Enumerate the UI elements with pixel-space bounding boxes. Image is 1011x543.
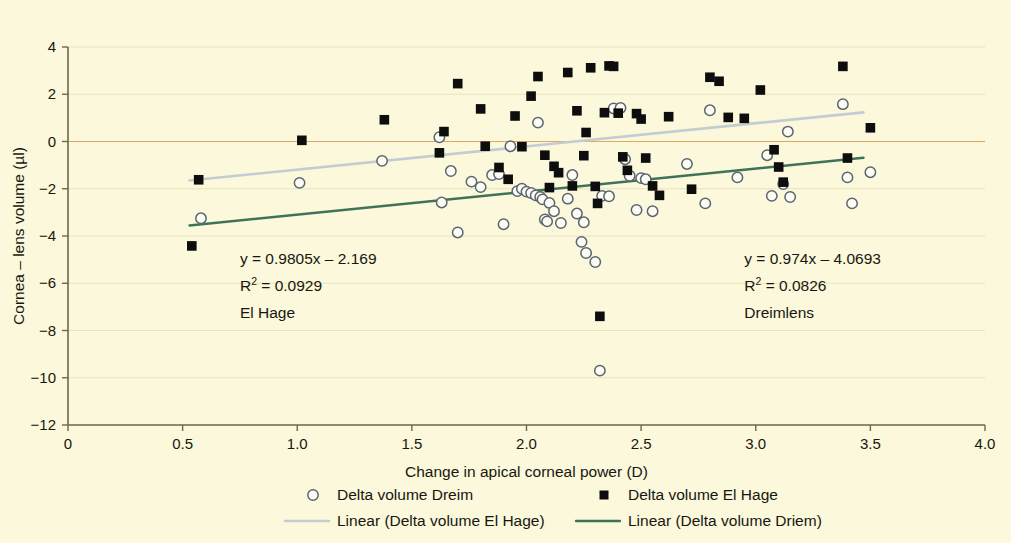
data-point-dreim [579,217,589,227]
data-point-dreim [196,213,206,223]
data-point-dreim [581,248,591,258]
data-point-dreim [294,178,304,188]
data-point-el-hage [664,112,674,122]
data-point-dreim [576,237,586,247]
data-point-el-hage [609,62,619,72]
y-axis-tick-label: −6 [39,274,56,291]
y-axis-tick-label: −8 [39,322,56,339]
y-axis-tick-label: −2 [39,180,56,197]
data-point-el-hage [503,175,513,185]
x-axis-tick-label: 4.0 [975,435,996,452]
data-point-el-hage [636,114,646,124]
x-axis-tick-label: 0 [64,435,72,452]
plot-svg: 420−2−4−6−8−10−1200.51.01.52.02.53.03.54… [0,0,1011,543]
x-axis-tick-label: 0.5 [172,435,193,452]
data-point-el-hage [590,182,600,192]
data-point-el-hage [705,72,715,82]
y-axis-tick-label: 4 [48,38,56,55]
x-axis-tick-label: 2.5 [631,435,652,452]
data-point-el-hage [568,181,578,191]
data-point-el-hage [526,91,536,101]
data-point-el-hage [769,145,779,155]
data-point-dreim [556,218,566,228]
data-point-dreim [498,219,508,229]
data-point-el-hage [554,168,564,178]
y-axis-tick-label: −12 [31,416,56,433]
x-axis-tick-label: 1.0 [287,435,308,452]
y-axis-tick-label: 0 [48,133,56,150]
data-point-dreim [838,99,848,109]
data-point-el-hage [572,106,582,116]
data-point-dreim [377,156,387,166]
data-point-dreim [567,170,577,180]
data-point-dreim [475,182,485,192]
data-point-el-hage [540,150,550,160]
annotation-dreimlens-series-label: Dreimlens [744,304,814,321]
data-point-el-hage [843,153,853,163]
data-point-dreim [533,117,543,127]
data-point-dreim [590,257,600,267]
legend-label: Delta volume Dreim [337,486,473,503]
chart-annotations: y = 0.9805x – 2.169R2 = 0.0929El Hagey =… [240,250,881,321]
data-point-el-hage [510,111,520,121]
data-point-el-hage [476,104,486,114]
annotation-dreimlens-equation: y = 0.974x – 4.0693 [744,250,881,267]
data-points [187,61,876,376]
data-point-dreim [847,198,857,208]
data-point-el-hage [655,191,665,201]
data-point-el-hage [739,114,749,124]
data-point-dreim [595,365,605,375]
data-point-el-hage [435,148,445,158]
data-point-el-hage [778,177,788,187]
data-point-dreim [549,206,559,216]
data-point-el-hage [613,108,623,118]
data-point-el-hage [563,68,573,78]
annotation-el-hage-r-squared: R2 = 0.0929 [240,275,322,294]
axis-titles: Change in apical corneal power (D)Cornea… [10,147,648,480]
x-axis-tick-label: 3.0 [745,435,766,452]
annotation-el-hage-equation: y = 0.9805x – 2.169 [240,250,377,267]
data-point-el-hage [641,153,651,163]
legend-marker-dreim [308,490,318,500]
data-point-el-hage [714,76,724,86]
data-point-el-hage [545,183,555,193]
data-point-dreim [446,166,456,176]
data-point-dreim [505,141,515,151]
chart-legend: Delta volume DreimDelta volume El HageLi… [285,486,822,529]
data-point-el-hage [756,85,766,95]
data-point-dreim [785,192,795,202]
data-point-el-hage [774,162,784,172]
legend-marker-el-hage [600,491,609,500]
data-point-el-hage [581,128,591,138]
y-axis-tick-label: −10 [31,369,56,386]
legend-label: Delta volume El Hage [628,486,778,503]
y-axis-tick-label: 2 [48,85,56,102]
data-point-dreim [842,172,852,182]
x-axis-tick-label: 1.5 [401,435,422,452]
data-point-el-hage [380,115,390,125]
data-point-el-hage [297,136,307,146]
data-point-el-hage [648,181,658,191]
x-axis-title: Change in apical corneal power (D) [405,463,648,480]
data-point-el-hage [453,79,463,89]
data-point-dreim [700,198,710,208]
data-point-dreim [647,206,657,216]
data-point-dreim [604,191,614,201]
data-point-el-hage [595,312,605,322]
data-point-el-hage [600,108,610,118]
data-point-dreim [436,197,446,207]
x-axis-tick-label: 2.0 [516,435,537,452]
data-point-dreim [865,167,875,177]
data-point-el-hage [517,142,527,152]
data-point-dreim [572,208,582,218]
data-point-el-hage [623,166,633,176]
data-point-dreim [453,227,463,237]
data-point-el-hage [593,199,603,209]
data-point-el-hage [194,175,204,185]
scatter-chart-figure: 420−2−4−6−8−10−1200.51.01.52.02.53.03.54… [0,0,1011,543]
data-point-el-hage [838,62,848,72]
data-point-el-hage [687,184,697,194]
data-point-el-hage [723,113,733,123]
data-point-el-hage [579,151,589,161]
annotation-el-hage-series-label: El Hage [240,304,295,321]
